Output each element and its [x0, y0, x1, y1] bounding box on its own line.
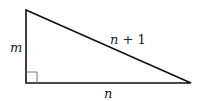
label-hyp-n: n: [110, 32, 118, 47]
triangle: [26, 10, 191, 83]
right-triangle-diagram: m n + 1 n: [0, 0, 205, 101]
label-hyp-plus-one: + 1: [118, 32, 145, 47]
label-n: n: [104, 86, 112, 101]
right-angle-marker: [26, 72, 37, 83]
label-hypotenuse: n + 1: [110, 32, 146, 47]
label-m: m: [10, 40, 22, 55]
